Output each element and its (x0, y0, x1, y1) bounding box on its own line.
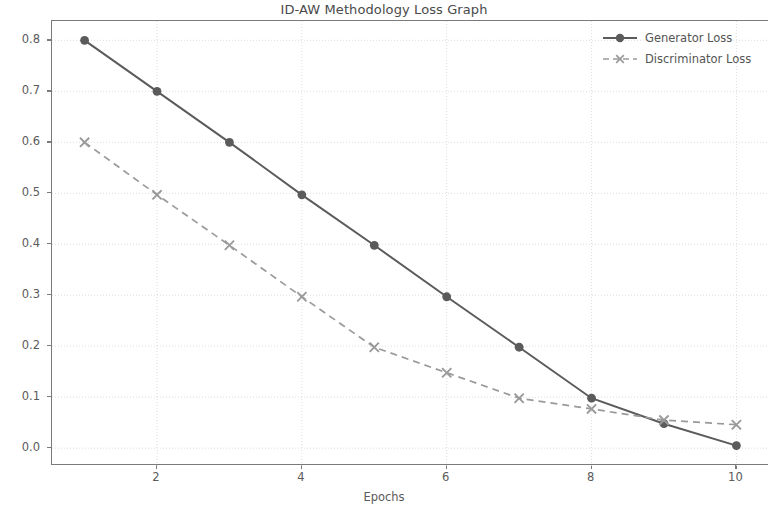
y-tick-label: 0.4 (0, 236, 40, 250)
y-tick-label: 0.0 (0, 440, 40, 454)
legend-swatch-solid-circle-icon (600, 29, 640, 47)
y-tick-label: 0.1 (0, 389, 40, 403)
plot-canvas (52, 21, 768, 466)
x-tick-label: 4 (281, 470, 321, 484)
chart-legend: Generator Loss Discriminator Loss (600, 27, 768, 69)
plot-area (51, 20, 768, 465)
y-tick-label: 0.6 (0, 134, 40, 148)
x-tick-label: 10 (715, 470, 755, 484)
x-tick-label: 6 (426, 470, 466, 484)
legend-label-discriminator-loss: Discriminator Loss (640, 52, 751, 66)
legend-label-generator-loss: Generator Loss (640, 31, 732, 45)
x-tick-label: 2 (136, 470, 176, 484)
y-tick-label: 0.8 (0, 32, 40, 46)
x-tick-label: 8 (571, 470, 611, 484)
legend-swatch-dashed-x-icon (600, 50, 640, 68)
chart-title: ID-AW Methodology Loss Graph (0, 2, 768, 17)
x-axis-label: Epochs (0, 490, 768, 504)
y-tick-label: 0.3 (0, 287, 40, 301)
y-tick-label: 0.7 (0, 83, 40, 97)
y-tick-label: 0.5 (0, 185, 40, 199)
y-tick-label: 0.2 (0, 338, 40, 352)
loss-chart-figure: ID-AW Methodology Loss Graph Loss Epochs… (0, 0, 768, 514)
legend-item-discriminator-loss: Discriminator Loss (600, 48, 768, 69)
legend-item-generator-loss: Generator Loss (600, 27, 768, 48)
